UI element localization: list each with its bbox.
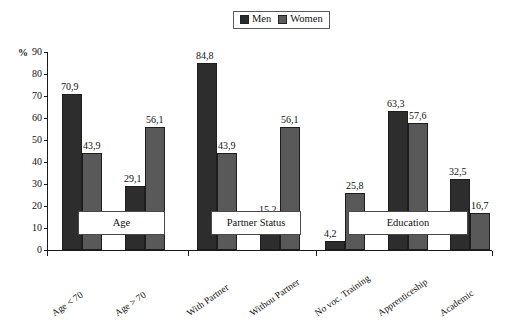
y-axis-tick-label: 0 [18, 245, 42, 255]
group-label-box: Partner Status [211, 211, 301, 235]
x-axis-category-label: Withou Partner [248, 277, 301, 318]
bar-women [82, 153, 102, 250]
x-axis-category-label: Age < 70 [50, 290, 85, 319]
bar-value-label: 25,8 [346, 181, 364, 191]
x-axis-line [47, 250, 492, 251]
y-axis-tick-label: 40 [18, 157, 42, 167]
bar-value-label: 16,7 [471, 201, 489, 211]
y-axis-tick-label: 50 [18, 135, 42, 145]
bar-value-label: 57,6 [409, 111, 427, 121]
plot-area: % 9080706050403020100 70,943,929,156,184… [0, 0, 529, 336]
y-axis-tick-label: 60 [18, 113, 42, 123]
bar-column [325, 52, 345, 250]
y-axis-tick-mark [44, 118, 48, 119]
bar-value-label: 4,2 [324, 229, 337, 239]
x-axis-category-label: Academic [438, 288, 475, 318]
group-label-box: Age [78, 211, 165, 235]
bar-value-label: 43,9 [83, 141, 101, 151]
y-axis-tick-mark [44, 96, 48, 97]
y-axis-tick-label: 80 [18, 69, 42, 79]
y-axis-tick-label: 20 [18, 201, 42, 211]
bar-chart: Men Women % 9080706050403020100 70,943,9… [0, 0, 529, 336]
bar-value-label: 32,5 [449, 167, 467, 177]
bar-value-label: 84,8 [196, 51, 214, 61]
x-axis-category-label: Apprenticeship [376, 277, 429, 318]
x-axis-group-tick [188, 251, 189, 256]
x-axis-category-label: Age > 70 [113, 290, 148, 319]
y-axis-tick-mark [44, 206, 48, 207]
x-axis-group-tick [316, 251, 317, 256]
x-axis-group-tick [492, 251, 493, 256]
y-axis-line [47, 52, 48, 251]
y-axis-tick-mark [44, 162, 48, 163]
bar-women [470, 213, 490, 250]
y-axis-tick-mark [44, 52, 48, 53]
y-axis-tick-label: 10 [18, 223, 42, 233]
x-axis-category-label: With Partner [185, 282, 230, 318]
bar-value-label: 56,1 [281, 115, 299, 125]
group-label-box: Education [348, 211, 468, 235]
y-axis-tick-mark [44, 74, 48, 75]
bar-value-label: 56,1 [146, 115, 164, 125]
bar-women [217, 153, 237, 250]
bar-value-label: 43,9 [218, 141, 236, 151]
y-axis-tick-mark [44, 228, 48, 229]
bar-value-label: 70,9 [61, 82, 79, 92]
bar-value-label: 63,3 [387, 99, 405, 109]
bar-value-label: 29,1 [124, 174, 142, 184]
x-axis-group-tick [47, 251, 48, 256]
x-axis-category-label: No voc. Training [313, 273, 372, 318]
y-axis-tick-label: 90 [18, 47, 42, 57]
y-axis-tick-mark [44, 184, 48, 185]
y-axis-tick-label: 70 [18, 91, 42, 101]
bar-men [325, 241, 345, 250]
bar-column [470, 52, 490, 250]
y-axis-tick-mark [44, 140, 48, 141]
y-axis-tick-label: 30 [18, 179, 42, 189]
